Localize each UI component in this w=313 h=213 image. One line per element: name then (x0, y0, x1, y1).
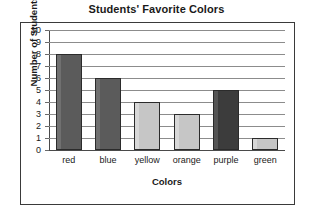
y-tick-mark (45, 150, 49, 151)
x-axis-title: Colors (49, 176, 285, 187)
plot-area (49, 30, 285, 150)
y-tick-label: 2 (25, 122, 41, 131)
bar-blue (95, 78, 121, 150)
gridline (49, 150, 285, 151)
x-tick-label-orange: orange (167, 155, 206, 165)
y-tick-label: 6 (25, 74, 41, 83)
bar-chart: Students' Favorite Colors Number of Stud… (0, 0, 313, 213)
bar-highlight-edge (96, 79, 100, 149)
y-tick-label: 0 (25, 146, 41, 155)
x-tick-label-yellow: yellow (128, 155, 167, 165)
x-tick-label-green: green (246, 155, 285, 165)
bar-green (252, 138, 278, 150)
chart-title: Students' Favorite Colors (0, 3, 313, 15)
y-tick-label: 4 (25, 98, 41, 107)
y-tick-label: 7 (25, 62, 41, 71)
bar-purple (213, 90, 239, 150)
bar-highlight-edge (135, 103, 139, 149)
y-tick-label: 1 (25, 134, 41, 143)
bar-highlight-edge (175, 115, 179, 149)
y-tick-label: 5 (25, 86, 41, 95)
y-tick-label: 3 (25, 110, 41, 119)
y-tick-label: 9 (25, 38, 41, 47)
y-tick-label: 10 (25, 26, 41, 35)
y-tick-label: 8 (25, 50, 41, 59)
bar-highlight-edge (253, 139, 257, 149)
bar-yellow (134, 102, 160, 150)
bar-orange (174, 114, 200, 150)
x-tick-label-blue: blue (88, 155, 127, 165)
x-tick-label-red: red (49, 155, 88, 165)
bar-highlight-edge (57, 55, 61, 149)
x-tick-label-purple: purple (206, 155, 245, 165)
bar-red (56, 54, 82, 150)
bar-highlight-edge (214, 91, 218, 149)
